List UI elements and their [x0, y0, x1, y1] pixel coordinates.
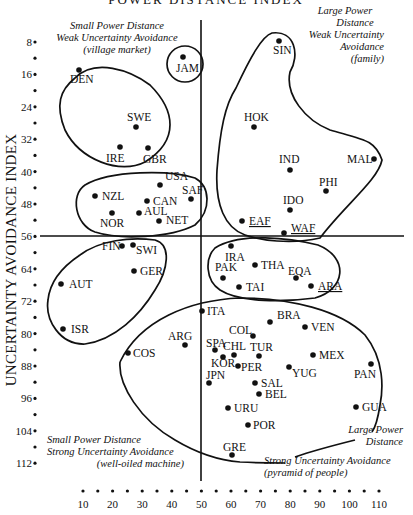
point-label: AUT: [69, 278, 93, 290]
y-axis-dot: [33, 300, 36, 303]
svg-text:Weak Uncertainty: Weak Uncertainty: [309, 29, 384, 40]
point-label: NZL: [102, 190, 124, 202]
data-point-phi: PHI: [319, 176, 338, 194]
y-axis-dot: [33, 348, 36, 351]
x-axis-dot: [244, 489, 247, 492]
data-point-chl: CHL: [223, 340, 246, 358]
point-marker: [125, 350, 131, 356]
point-marker: [225, 405, 231, 411]
x-axis-dot: [141, 489, 144, 492]
point-marker: [117, 144, 123, 150]
data-point-kor: KOR: [211, 354, 236, 369]
y-axis-dot: [33, 316, 36, 319]
y-axis-dot: [33, 154, 36, 157]
y-axis-dot: [33, 397, 36, 400]
x-tick-label: 70: [255, 498, 267, 510]
point-label: IND: [279, 153, 299, 165]
svg-text:Strong Uncertainty Avoidance: Strong Uncertainty Avoidance: [47, 446, 174, 457]
data-point-nzl: NZL: [92, 190, 124, 202]
y-tick-label: 40: [21, 166, 33, 178]
x-axis-dot: [185, 489, 188, 492]
y-tick-label: 8: [27, 36, 33, 48]
y-axis-dot: [33, 219, 36, 222]
cluster-outlines: [48, 33, 382, 463]
data-point-por: POR: [245, 419, 276, 431]
y-tick-label: 112: [16, 457, 32, 469]
point-marker: [133, 124, 139, 130]
point-label: GBR: [143, 153, 167, 165]
cluster-anglo: [76, 173, 207, 237]
point-marker: [287, 167, 293, 173]
point-marker: [229, 452, 235, 458]
data-point-hok: HOK: [244, 111, 270, 130]
point-label: SAF: [182, 184, 203, 196]
y-axis-dot: [33, 121, 36, 124]
data-point-mal: MAL: [347, 153, 377, 165]
point-label: BRA: [277, 309, 301, 321]
quadrant-annotation-top-left: Small Power Distance Weak Uncertainty Av…: [56, 20, 178, 56]
point-label: WAF: [291, 222, 315, 234]
svg-text:Large Power: Large Power: [317, 5, 374, 16]
x-tick-label: 50: [196, 498, 208, 510]
y-tick-label: 96: [21, 392, 33, 404]
svg-text:Strong Uncertainty Avoidance: Strong Uncertainty Avoidance: [264, 455, 391, 466]
x-axis-dot: [303, 489, 306, 492]
data-point-ven: VEN: [302, 321, 335, 333]
point-label: BEL: [265, 388, 287, 400]
point-marker: [156, 218, 162, 224]
svg-text:Distance: Distance: [335, 17, 374, 28]
data-point-yug: YUG: [286, 364, 317, 379]
data-point-gua: GUA: [353, 401, 387, 413]
x-axis-dot: [274, 489, 277, 492]
y-axis-dot: [33, 235, 36, 238]
point-label: NET: [166, 214, 188, 226]
data-point-jpn: JPN: [206, 369, 226, 386]
x-axis-dot: [200, 489, 203, 492]
point-label: JAM: [176, 62, 199, 74]
point-marker: [220, 275, 226, 281]
point-marker: [256, 391, 262, 397]
y-axis-dot: [33, 105, 36, 108]
point-marker: [76, 67, 82, 73]
point-marker: [323, 188, 329, 194]
point-marker: [251, 124, 257, 130]
point-label: SIN: [273, 44, 292, 56]
point-label: HOK: [244, 111, 270, 123]
data-points: JAMSINDENSWEIREGBRHOKINDMALPHIUSANZLSAFC…: [58, 38, 387, 458]
x-tick-label: 80: [285, 498, 297, 510]
svg-text:Small Power Distance: Small Power Distance: [70, 20, 164, 31]
x-tick-label: 90: [314, 498, 326, 510]
point-marker: [60, 326, 66, 332]
point-marker: [353, 404, 359, 410]
data-point-ire: IRE: [106, 144, 125, 164]
point-marker: [252, 380, 258, 386]
svg-text:Small Power Distance: Small Power Distance: [47, 434, 141, 445]
x-axis-dot: [289, 489, 292, 492]
data-point-bel: BEL: [256, 388, 287, 400]
point-label: PHI: [319, 176, 338, 188]
data-point-tai: TAI: [236, 281, 264, 293]
data-point-eaf: EAF: [239, 215, 271, 227]
x-axis-dot: [259, 489, 262, 492]
point-marker: [267, 319, 273, 325]
y-axis-dot: [33, 381, 36, 384]
data-point-nor: NOR: [100, 210, 125, 229]
point-label: DEN: [70, 73, 94, 85]
data-point-pan: PAN: [354, 361, 377, 380]
x-axis-dot: [333, 489, 336, 492]
data-point-tha: THA: [252, 259, 285, 271]
point-label: ARA: [318, 280, 343, 292]
y-axis-dot: [33, 332, 36, 335]
point-label: COL: [229, 324, 252, 336]
data-point-aul: AUL: [136, 205, 167, 217]
cluster-family: [217, 33, 382, 242]
y-tick-label: 88: [21, 360, 33, 372]
point-label: ISR: [71, 323, 89, 335]
point-label: GRE: [223, 441, 246, 453]
y-axis-dot: [33, 40, 36, 43]
svg-text:Large Power: Large Power: [347, 424, 404, 435]
point-label: EAF: [249, 215, 271, 227]
svg-text:(village market): (village market): [83, 44, 151, 56]
point-marker: [310, 352, 316, 358]
x-tick-label: 100: [341, 498, 358, 510]
